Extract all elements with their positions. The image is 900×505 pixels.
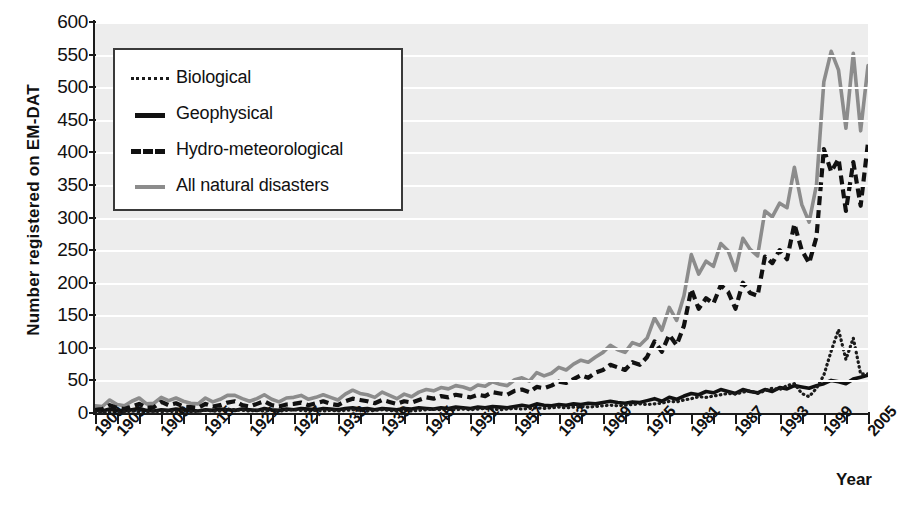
x-tick-label: 1999 [820,402,856,440]
x-tick-label: 1963 [555,402,591,440]
y-tick-mark [89,347,96,349]
x-tick-label: 1987 [731,402,767,440]
y-tick-mark [89,282,96,284]
legend-swatch-dashed-icon [131,142,169,156]
y-tick-mark [89,151,96,153]
x-axis-title: Year [836,470,872,490]
legend-label: All natural disasters [176,175,329,196]
y-tick-mark [89,21,96,23]
legend-label: Hydro-meteorological [176,139,343,160]
legend-swatch-solid-gray-icon [131,178,169,192]
x-tick-label: 1951 [466,402,502,440]
x-tick-label: 1993 [776,402,812,440]
x-tick-label: 1909 [157,402,193,440]
y-tick-mark [89,249,96,251]
y-tick-mark [89,217,96,219]
chart-legend: BiologicalGeophysicalHydro-meteorologica… [113,48,403,211]
legend-item[interactable]: All natural disasters [115,167,401,203]
legend-label: Biological [176,67,251,88]
x-tick-label: 2005 [864,402,900,440]
legend-item[interactable]: Hydro-meteorological [115,131,401,167]
y-tick-mark [89,314,96,316]
y-tick-mark [89,184,96,186]
legend-item[interactable]: Geophysical [115,95,401,131]
x-tick-label: 1939 [378,402,414,440]
x-tick-label: 1975 [643,402,679,440]
x-tick-label: 1981 [687,402,723,440]
legend-label: Geophysical [176,103,273,124]
x-tick-label: 1945 [422,402,458,440]
x-tick-label: 1915 [201,402,237,440]
y-tick-mark [89,86,96,88]
y-tick-mark [89,412,96,414]
y-tick-mark [89,119,96,121]
y-tick-mark [89,54,96,56]
x-tick-label: 1957 [511,402,547,440]
legend-item[interactable]: Biological [115,59,401,95]
x-tick-label: 1933 [334,402,370,440]
legend-swatch-dotted-icon [131,70,169,84]
legend-swatch-solid-icon [131,106,169,120]
x-tick-label: 1969 [599,402,635,440]
x-tick-label: 1927 [290,402,326,440]
x-tick-label: 1921 [246,402,282,440]
y-tick-mark [89,379,96,381]
